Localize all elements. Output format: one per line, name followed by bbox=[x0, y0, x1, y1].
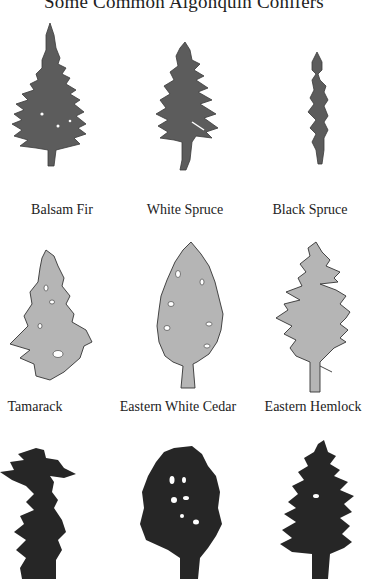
black-spruce-illustration bbox=[250, 20, 368, 200]
eastern-white-cedar-illustration bbox=[125, 230, 250, 400]
tree-label-eastern-white-cedar: Eastern White Cedar bbox=[108, 399, 248, 415]
white-spruce-illustration bbox=[120, 20, 250, 200]
tamarack-illustration bbox=[0, 230, 130, 400]
figure-title: Some Common Algonquin Conifers bbox=[0, 0, 368, 13]
tree-label-balsam-fir: Balsam Fir bbox=[2, 202, 122, 218]
tree-label-eastern-hemlock: Eastern Hemlock bbox=[258, 399, 368, 415]
tree-label-black-spruce: Black Spruce bbox=[255, 202, 365, 218]
tree-label-white-spruce: White Spruce bbox=[125, 202, 245, 218]
black-silhouette-tree-3 bbox=[270, 430, 368, 579]
balsam-fir-illustration bbox=[0, 20, 130, 200]
black-silhouette-tree-1 bbox=[0, 440, 100, 579]
black-silhouette-tree-2 bbox=[136, 440, 236, 579]
eastern-hemlock-illustration bbox=[250, 230, 368, 400]
tree-label-tamarack: Tamarack bbox=[0, 399, 70, 415]
